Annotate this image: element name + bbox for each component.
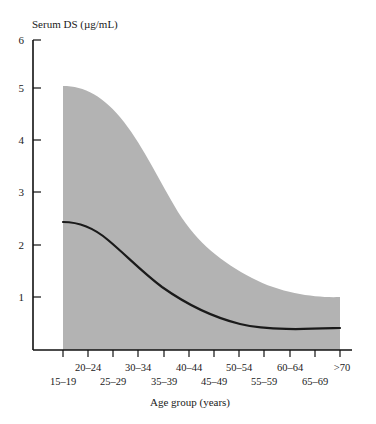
- y-tick-label-4: 4: [19, 134, 25, 146]
- x-tick-label-40-44: 40–44: [176, 362, 203, 373]
- x-tick-label-55-59: 55–59: [251, 376, 277, 387]
- y-tick-label-2: 2: [19, 239, 25, 251]
- x-axis-tick-labels-lower-row: 15–19 25–29 35–39 45–49 55–59 65–69: [50, 376, 328, 387]
- x-axis-title: Age group (years): [150, 396, 230, 409]
- y-tick-label-1: 1: [19, 291, 25, 303]
- x-tick-label-60-64: 60–64: [277, 362, 304, 373]
- chart-svg: Serum DS (µg/mL) 6 5 4 3 2 1: [0, 0, 376, 424]
- x-axis-tick-labels-upper-row: 20–24 30–34 40–44 50–54 60–64 >70: [75, 362, 350, 373]
- x-tick-label-35-39: 35–39: [151, 376, 177, 387]
- y-axis-tick-labels: 6 5 4 3 2 1: [19, 34, 25, 303]
- x-tick-label-50-54: 50–54: [226, 362, 253, 373]
- x-tick-label-over-70: >70: [334, 362, 350, 373]
- x-tick-label-20-24: 20–24: [75, 362, 102, 373]
- y-axis-title: Serum DS (µg/mL): [32, 18, 118, 31]
- y-tick-label-5: 5: [19, 82, 25, 94]
- x-tick-label-25-29: 25–29: [100, 376, 126, 387]
- y-tick-label-6: 6: [19, 34, 25, 46]
- x-tick-label-45-49: 45–49: [201, 376, 227, 387]
- serum-ds-age-chart: Serum DS (µg/mL) 6 5 4 3 2 1: [0, 0, 376, 424]
- y-axis-ticks: [33, 40, 41, 297]
- x-tick-label-30-34: 30–34: [125, 362, 152, 373]
- x-tick-label-15-19: 15–19: [50, 376, 76, 387]
- x-tick-label-65-69: 65–69: [302, 376, 328, 387]
- y-tick-label-3: 3: [19, 186, 25, 198]
- x-axis-ticks: [63, 350, 340, 357]
